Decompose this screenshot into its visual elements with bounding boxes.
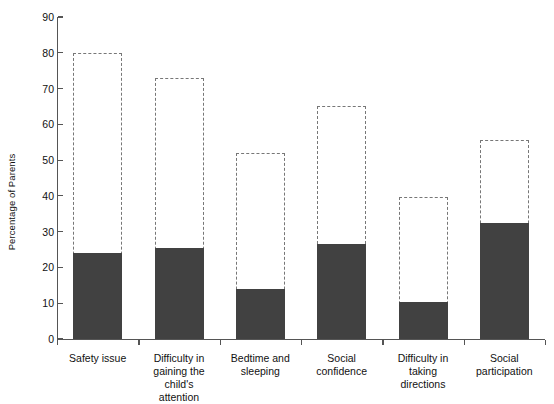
x-tick-mark bbox=[545, 340, 546, 345]
y-tick-label: 80 bbox=[42, 47, 58, 59]
category-label-line: gaining the bbox=[138, 365, 219, 378]
y-tick-label: 60 bbox=[42, 118, 58, 130]
y-tick-mark bbox=[58, 303, 63, 304]
y-tick-mark bbox=[58, 52, 63, 53]
y-tick-20: 20 bbox=[11, 261, 63, 273]
y-tick-10: 10 bbox=[11, 297, 63, 309]
y-tick-mark bbox=[58, 160, 63, 161]
plot-area: 0102030405060708090 bbox=[57, 10, 545, 346]
bar-group bbox=[317, 106, 366, 339]
category-label-4: Difficulty intakingdirections bbox=[382, 352, 463, 391]
y-tick-label: 90 bbox=[42, 11, 58, 23]
y-tick-80: 80 bbox=[11, 47, 63, 59]
y-axis-line bbox=[57, 17, 58, 339]
x-tick-mark bbox=[138, 340, 139, 345]
category-label-5: Socialparticipation bbox=[464, 352, 545, 378]
category-label-line: attention bbox=[138, 391, 219, 404]
y-tick-label: 20 bbox=[42, 261, 58, 273]
category-label-1: Difficulty ingaining thechild'sattention bbox=[138, 352, 219, 404]
y-tick-mark bbox=[58, 267, 63, 268]
y-tick-label: 40 bbox=[42, 190, 58, 202]
y-tick-mark bbox=[58, 231, 63, 232]
category-label-3: Socialconfidence bbox=[301, 352, 382, 378]
bar-group bbox=[236, 153, 285, 339]
category-label-line: Social bbox=[301, 352, 382, 365]
bar-fill bbox=[317, 244, 366, 339]
y-tick-mark bbox=[58, 124, 63, 125]
y-tick-70: 70 bbox=[11, 83, 63, 95]
y-tick-label: 70 bbox=[42, 83, 58, 95]
bar-fill bbox=[155, 248, 204, 339]
x-tick-mark bbox=[464, 340, 465, 345]
y-tick-0: 0 bbox=[11, 333, 63, 345]
y-tick-90: 90 bbox=[11, 11, 63, 23]
bar-chart: Percentage of Parents 010203040506070809… bbox=[0, 0, 554, 404]
x-tick-mark bbox=[301, 340, 302, 345]
bar-group bbox=[399, 197, 448, 339]
category-label-line: taking bbox=[382, 365, 463, 378]
category-label-line: confidence bbox=[301, 365, 382, 378]
category-label-0: Safety issue bbox=[57, 352, 138, 365]
bar-fill bbox=[236, 289, 285, 339]
y-tick-label: 10 bbox=[42, 297, 58, 309]
x-tick-mark bbox=[57, 340, 58, 345]
y-tick-60: 60 bbox=[11, 118, 63, 130]
y-tick-mark bbox=[58, 16, 63, 17]
bar-group bbox=[480, 140, 529, 339]
category-label-line: participation bbox=[464, 365, 545, 378]
y-tick-30: 30 bbox=[11, 226, 63, 238]
category-label-line: Social bbox=[464, 352, 545, 365]
bar-fill bbox=[73, 253, 122, 339]
bar-group bbox=[73, 53, 122, 339]
category-label-line: sleeping bbox=[220, 365, 301, 378]
y-tick-50: 50 bbox=[11, 154, 63, 166]
category-label-2: Bedtime andsleeping bbox=[220, 352, 301, 378]
category-label-line: Bedtime and bbox=[220, 352, 301, 365]
x-tick-mark bbox=[382, 340, 383, 345]
bar-fill bbox=[399, 302, 448, 339]
category-label-line: directions bbox=[382, 378, 463, 391]
y-tick-mark bbox=[58, 195, 63, 196]
category-label-line: child's bbox=[138, 378, 219, 391]
category-label-line: Difficulty in bbox=[138, 352, 219, 365]
y-tick-label: 30 bbox=[42, 226, 58, 238]
y-tick-40: 40 bbox=[11, 190, 63, 202]
y-tick-label: 50 bbox=[42, 154, 58, 166]
y-tick-mark bbox=[58, 88, 63, 89]
bar-group bbox=[155, 78, 204, 339]
y-tick-mark bbox=[58, 338, 63, 339]
category-label-line: Safety issue bbox=[57, 352, 138, 365]
category-label-line: Difficulty in bbox=[382, 352, 463, 365]
x-tick-mark bbox=[220, 340, 221, 345]
bar-fill bbox=[480, 223, 529, 339]
